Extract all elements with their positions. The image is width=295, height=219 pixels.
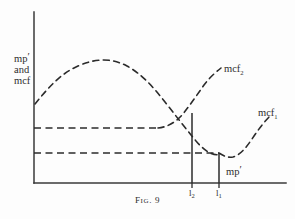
caption-smallcaps: IG — [141, 197, 150, 205]
curve-label-mp-prime-mark: ′ — [239, 164, 241, 175]
caption-suffix: . 9 — [149, 195, 160, 205]
curve-label-mcf2-base: mcf — [224, 63, 241, 74]
curve-label-mcf1: mcf1 — [258, 107, 278, 120]
y-axis-label-line3: mcf — [14, 75, 31, 86]
chart-svg: mp′ and mcf mcf2 mcf1 mp′ l2 l1 — [0, 0, 295, 219]
curve-label-mp-prime: mp′ — [226, 164, 242, 177]
y-axis-label-line1-prime: ′ — [27, 51, 29, 62]
curve-label-mcf1-sub: 1 — [274, 113, 277, 120]
y-axis-label: mp′ and mcf — [14, 51, 31, 86]
curve-mcf2-rise — [158, 68, 221, 128]
figure-caption: FIG. 9 — [0, 195, 295, 205]
figure-container: mp′ and mcf mcf2 mcf1 mp′ l2 l1 — [0, 0, 295, 219]
curve-mcf1-rise — [219, 116, 270, 157]
curve-label-mp-base: mp — [226, 166, 239, 177]
curve-mp-prime — [35, 60, 221, 155]
curve-label-mcf1-base: mcf — [258, 107, 275, 118]
y-axis-label-line1: mp — [14, 53, 27, 64]
curve-label-mcf2: mcf2 — [224, 63, 244, 76]
curve-label-mcf2-sub: 2 — [240, 69, 243, 76]
y-axis-label-line2: and — [14, 64, 30, 75]
svg-text:mp′: mp′ — [14, 51, 30, 64]
